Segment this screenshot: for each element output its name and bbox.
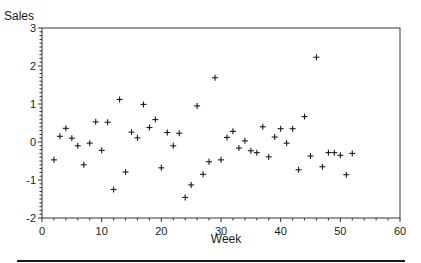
plus-marker-icon xyxy=(230,128,236,134)
plus-marker-icon xyxy=(242,138,248,144)
plus-marker-icon xyxy=(170,143,176,149)
plus-marker-icon xyxy=(200,171,206,177)
plus-marker-icon xyxy=(272,134,278,140)
plus-marker-icon xyxy=(188,182,194,188)
plus-marker-icon xyxy=(63,125,69,131)
plus-marker-icon xyxy=(325,150,331,156)
plus-marker-icon xyxy=(337,152,343,158)
plus-marker-icon xyxy=(302,114,308,120)
plus-marker-icon xyxy=(105,119,111,125)
y-tick-label: -1 xyxy=(26,174,36,186)
plus-marker-icon xyxy=(212,75,218,81)
plus-marker-icon xyxy=(194,103,200,109)
plus-marker-icon xyxy=(158,165,164,171)
plus-marker-icon xyxy=(182,194,188,200)
plus-marker-icon xyxy=(254,150,260,156)
plus-marker-icon xyxy=(51,157,57,163)
plus-marker-icon xyxy=(248,148,254,154)
y-tick-label: -2 xyxy=(26,212,36,224)
y-tick-label: 2 xyxy=(30,60,36,72)
x-tick-label: 0 xyxy=(39,225,45,237)
plus-marker-icon xyxy=(57,133,63,139)
y-axis-label: Sales xyxy=(4,9,34,23)
plus-marker-icon xyxy=(266,154,272,160)
y-axis: -2-10123 xyxy=(26,22,42,224)
plus-marker-icon xyxy=(117,96,123,102)
plus-marker-icon xyxy=(140,101,146,107)
scatter-chart: Sales -2-10123 0102030405060 Week xyxy=(0,0,421,263)
x-tick-label: 40 xyxy=(275,225,287,237)
plus-marker-icon xyxy=(343,172,349,178)
plus-marker-icon xyxy=(81,162,87,168)
plus-marker-icon xyxy=(313,54,319,60)
plus-marker-icon xyxy=(224,134,230,140)
plus-marker-icon xyxy=(146,125,152,131)
plus-marker-icon xyxy=(129,129,135,135)
plus-marker-icon xyxy=(134,135,140,141)
plus-marker-icon xyxy=(93,119,99,125)
plus-marker-icon xyxy=(176,130,182,136)
y-tick-label: 3 xyxy=(30,22,36,34)
plus-marker-icon xyxy=(349,150,355,156)
data-points xyxy=(51,54,355,200)
plus-marker-icon xyxy=(218,157,224,163)
plus-marker-icon xyxy=(236,145,242,151)
x-tick-label: 60 xyxy=(394,225,406,237)
plus-marker-icon xyxy=(123,169,129,175)
y-tick-label: 1 xyxy=(30,98,36,110)
plus-marker-icon xyxy=(152,117,158,123)
plus-marker-icon xyxy=(290,126,296,132)
y-tick-label: 0 xyxy=(30,136,36,148)
plus-marker-icon xyxy=(284,140,290,146)
x-tick-label: 10 xyxy=(96,225,108,237)
plus-marker-icon xyxy=(331,150,337,156)
plus-marker-icon xyxy=(99,147,105,153)
plus-marker-icon xyxy=(87,140,93,146)
plus-marker-icon xyxy=(319,164,325,170)
plus-marker-icon xyxy=(206,159,212,165)
x-tick-label: 20 xyxy=(155,225,167,237)
plus-marker-icon xyxy=(296,167,302,173)
plus-marker-icon xyxy=(278,126,284,132)
plus-marker-icon xyxy=(308,153,314,159)
x-axis-label: Week xyxy=(211,232,242,246)
plus-marker-icon xyxy=(164,130,170,136)
plus-marker-icon xyxy=(75,143,81,149)
plus-marker-icon xyxy=(260,124,266,130)
x-tick-label: 50 xyxy=(334,225,346,237)
plus-marker-icon xyxy=(111,187,117,193)
plus-marker-icon xyxy=(69,135,75,141)
